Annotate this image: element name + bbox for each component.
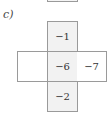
cell-value: −2 xyxy=(55,91,70,102)
cross-cell-center: −6 xyxy=(47,51,78,82)
cross-cell-top: −1 xyxy=(47,21,78,52)
cell-value: −1 xyxy=(55,31,70,42)
cross-cell-bottom: −2 xyxy=(47,81,78,112)
cross-cell-right: −7 xyxy=(77,51,107,82)
previous-figure-box-edge xyxy=(47,0,78,2)
cell-value: −7 xyxy=(84,61,99,72)
cell-value: −6 xyxy=(55,61,70,72)
part-label: c) xyxy=(3,9,13,21)
cross-cell-left[interactable] xyxy=(17,51,48,82)
